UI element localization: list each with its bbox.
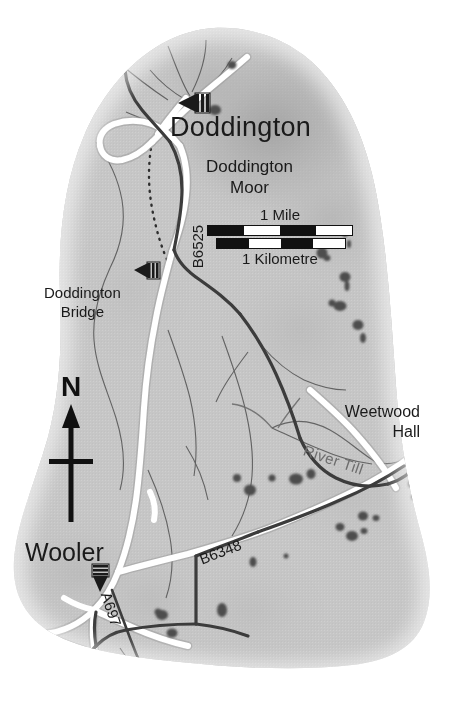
north-letter: N <box>42 372 100 402</box>
scale-seg-mile-2 <box>244 226 280 235</box>
scale-bar: 1 Mile 1 Kilometre <box>207 206 353 267</box>
doddington-moor-line2: Moor <box>206 177 293 198</box>
place-label-doddington: Doddington <box>170 112 311 143</box>
road-label-b6525: B6525 <box>189 225 206 268</box>
scale-kilometre-label: 1 Kilometre <box>207 250 353 267</box>
place-label-wooler: Wooler <box>25 538 104 567</box>
weetwood-hall-line1: Weetwood <box>330 402 420 422</box>
north-arrow: N <box>42 372 100 522</box>
map-landmass <box>0 0 454 707</box>
scale-seg-km-2 <box>249 239 281 248</box>
scale-seg-km-1 <box>217 239 249 248</box>
doddington-moor-line1: Doddington <box>206 156 293 177</box>
scale-mile-label: 1 Mile <box>207 206 353 223</box>
scale-bar-kilometres <box>216 238 346 249</box>
place-label-doddington-bridge: Doddington Bridge <box>44 283 121 321</box>
weetwood-hall-line2: Hall <box>330 422 420 442</box>
doddington-bridge-line1: Doddington <box>44 283 121 302</box>
scale-bar-miles <box>207 225 353 236</box>
doddington-bridge-line2: Bridge <box>44 302 121 321</box>
scale-seg-km-4 <box>313 239 345 248</box>
scale-seg-km-3 <box>281 239 313 248</box>
place-label-weetwood-hall: Weetwood Hall <box>330 402 420 442</box>
map-canvas: Doddington Doddington Moor Doddington Br… <box>0 0 454 707</box>
scale-seg-mile-4 <box>316 226 352 235</box>
place-label-doddington-moor: Doddington Moor <box>206 156 293 198</box>
scale-seg-mile-1 <box>208 226 244 235</box>
map-graphics <box>0 0 454 707</box>
scale-seg-mile-3 <box>280 226 316 235</box>
